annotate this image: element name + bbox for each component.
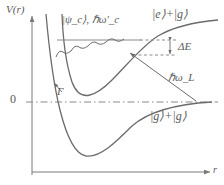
y-axis-label: V(r) bbox=[6, 4, 24, 15]
excited-asymptote-label: |e⟩+|g⟩ bbox=[152, 8, 188, 20]
ground-state-curve bbox=[46, 14, 212, 156]
bound-state-label: |ψ_c⟩, ℏω'_c bbox=[62, 14, 119, 25]
energy-gap-label: ΔE bbox=[178, 41, 191, 52]
decay-rate-label: Γ bbox=[57, 86, 63, 97]
ground-asymptote-label: |g⟩+|g⟩ bbox=[150, 110, 187, 122]
y-axis-zero-tick-label: 0 bbox=[10, 93, 16, 105]
diagram-canvas bbox=[0, 0, 224, 185]
x-axis-label: r bbox=[213, 165, 217, 175]
potential-energy-diagram: V(r) 0 r |ψ_c⟩, ℏω'_c |e⟩+|g⟩ ΔE ℏω_L |g… bbox=[0, 0, 224, 185]
laser-photon-label: ℏω_L bbox=[168, 72, 194, 83]
